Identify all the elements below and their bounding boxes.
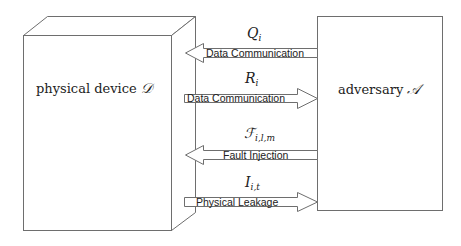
device-symbol: 𝒟: [141, 80, 152, 96]
device-label: physical device 𝒟: [36, 80, 152, 97]
arrow-symbol-f: ℱi,l,m: [244, 125, 275, 143]
adversary-label-text: adversary: [338, 82, 403, 97]
device-label-text: physical device: [36, 81, 137, 96]
adversary-box: [318, 17, 443, 211]
adversary-symbol: 𝒜: [407, 81, 420, 97]
arrow-label-fault-injection: Fault Injection: [223, 149, 288, 161]
diagram-canvas: [0, 0, 461, 246]
arrow-label-physical-leakage: Physical Leakage: [196, 196, 278, 208]
arrow-symbol-i: Ii,t: [245, 174, 260, 192]
arrow-symbol-q: Qi: [247, 25, 261, 43]
adversary-label: adversary 𝒜: [338, 81, 420, 98]
arrow-label-data-communication-out: Data Communication: [187, 92, 285, 104]
device-box: [24, 17, 196, 231]
arrow-symbol-r: Ri: [245, 70, 258, 88]
arrow-label-data-communication-in: Data Communication: [206, 47, 304, 59]
